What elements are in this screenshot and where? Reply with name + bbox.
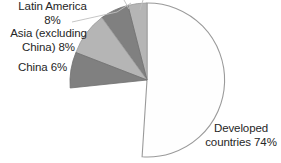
pie-label-asia-line2: China) 8% (0, 41, 100, 55)
pie-chart-figure: Latin America 8% Asia (excluding China) … (0, 0, 281, 163)
pie-label-china: China 6% (18, 61, 67, 75)
pie-label-latin-america-line2: 8% (1, 14, 104, 28)
pie-label-asia-excluding-china: Asia (excluding China) 8% (0, 27, 100, 54)
pie-label-developed-line1: Developed (203, 122, 279, 136)
pie-label-developed-countries: Developed countries 74% (203, 122, 279, 149)
pie-label-asia-line1: Asia (excluding (0, 27, 100, 41)
pie-label-developed-line2: countries 74% (203, 136, 279, 150)
pie-label-latin-america: Latin America 8% (1, 0, 104, 27)
pie-label-china-line1: China 6% (18, 61, 67, 75)
pie-label-latin-america-line1: Latin America (1, 0, 104, 14)
